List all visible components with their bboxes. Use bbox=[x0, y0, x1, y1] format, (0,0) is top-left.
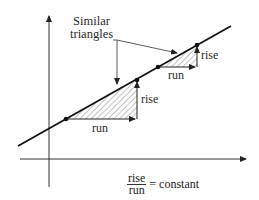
fraction-denominator: run bbox=[129, 185, 145, 196]
slope-equation: rise run = constant bbox=[127, 173, 199, 196]
big-run-label: run bbox=[92, 122, 108, 134]
fraction: rise run bbox=[127, 173, 146, 196]
big-rise-label: rise bbox=[141, 93, 158, 105]
equation-rhs: = constant bbox=[149, 177, 199, 192]
diagram-canvas bbox=[0, 0, 259, 200]
title-line-2: triangles bbox=[70, 28, 113, 41]
small-run-label: run bbox=[168, 69, 184, 81]
small-rise-label: rise bbox=[201, 49, 218, 61]
similar-triangles-label: Similar triangles bbox=[70, 15, 113, 41]
